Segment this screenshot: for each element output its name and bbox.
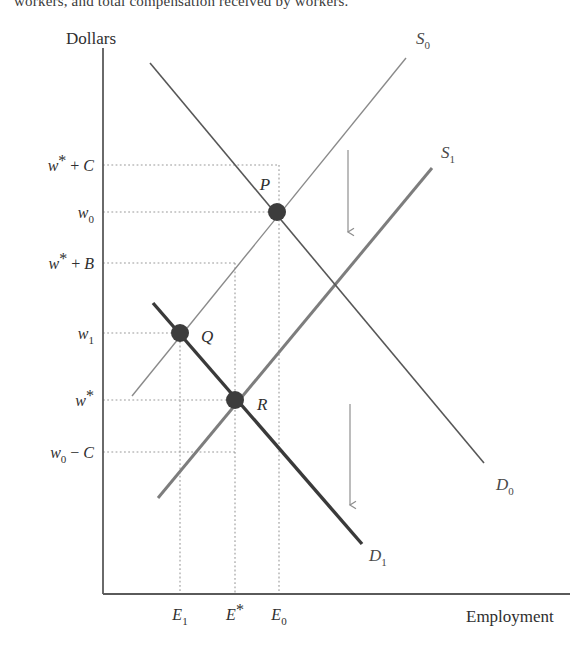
figure-page: workers, and total compensation received…: [0, 0, 588, 650]
y-tick-3-main: w: [78, 325, 89, 342]
y-tick-label-w1: w1: [78, 325, 94, 346]
y-tick-label-w0: w0: [78, 204, 95, 225]
y-tick-2-main: w: [49, 255, 60, 272]
x-tick-label-e1: E1: [171, 606, 187, 627]
y-tick-label-w-star: w*: [75, 387, 94, 409]
x-tick-labels-group: E1 E* E0: [171, 601, 287, 627]
curve-label-s0-sub: 0: [425, 39, 431, 51]
y-tick-label-w0-minus-c: w0 − C: [50, 444, 94, 465]
x-axis-title: Employment: [466, 607, 554, 626]
curve-label-s0: S0: [416, 29, 431, 51]
x-tick-1-main: E: [225, 606, 236, 623]
y-tick-5-op: −: [66, 444, 83, 461]
x-tick-0-sub: 1: [182, 615, 188, 627]
point-labels-group: P Q R: [201, 175, 270, 414]
y-tick-1-main: w: [78, 204, 89, 221]
y-tick-label-w-star-plus-b: w* + B: [49, 250, 95, 272]
guide-lines-group: [103, 165, 279, 594]
x-tick-0-main: E: [171, 606, 182, 623]
y-tick-0-star: *: [58, 152, 66, 169]
curve-label-d0: D0: [495, 475, 514, 497]
curves-group: [132, 58, 484, 544]
curve-label-d1-main: D: [368, 546, 382, 565]
y-tick-4-main: w: [75, 392, 86, 409]
y-tick-2-extra: B: [84, 255, 94, 272]
curve-labels-group: S0 S1 D0 D1: [368, 29, 514, 568]
y-tick-2-star: *: [59, 250, 67, 267]
x-tick-1-star: *: [236, 601, 244, 618]
point-label-p: P: [259, 175, 270, 194]
supply-curve-s0: [132, 58, 406, 396]
point-label-r: R: [256, 395, 268, 414]
point-marker-p[interactable]: [268, 203, 286, 221]
y-tick-label-w-star-plus-c: w* + C: [48, 152, 95, 174]
x-tick-label-e-star: E*: [225, 601, 244, 623]
y-tick-2-op: +: [67, 255, 84, 272]
equilibrium-points-group: [171, 203, 286, 409]
curve-label-d0-sub: 0: [508, 485, 514, 497]
point-marker-r[interactable]: [226, 391, 244, 409]
curve-label-d1-sub: 1: [381, 556, 387, 568]
x-tick-2-main: E: [270, 606, 281, 623]
y-tick-5-extra: C: [83, 444, 94, 461]
y-tick-4-star: *: [86, 387, 94, 404]
supply-curve-s1: [158, 168, 432, 498]
x-tick-2-sub: 0: [281, 615, 287, 627]
curve-label-s1-sub: 1: [450, 153, 456, 165]
y-tick-0-extra: C: [83, 157, 94, 174]
curve-label-s1: S1: [441, 143, 455, 165]
point-label-q: Q: [201, 327, 213, 346]
y-tick-5-main: w: [50, 444, 61, 461]
y-tick-labels-group: w* + C w0 w* + B w1 w* w0 − C: [48, 152, 95, 465]
y-tick-3-sub: 1: [89, 334, 95, 346]
y-tick-1-sub: 0: [89, 213, 95, 225]
curve-label-d1: D1: [368, 546, 387, 568]
x-tick-label-e0: E0: [270, 606, 287, 627]
shift-arrows-group: [348, 150, 350, 505]
y-tick-0-op: +: [66, 157, 83, 174]
y-tick-0-main: w: [48, 157, 59, 174]
labor-market-supply-demand-diagram: P Q R S0 S1 D0 D1 w* + C w0: [0, 0, 588, 650]
curve-label-d0-main: D: [495, 475, 509, 494]
point-marker-q[interactable]: [171, 324, 189, 342]
y-axis-title: Dollars: [66, 29, 116, 48]
